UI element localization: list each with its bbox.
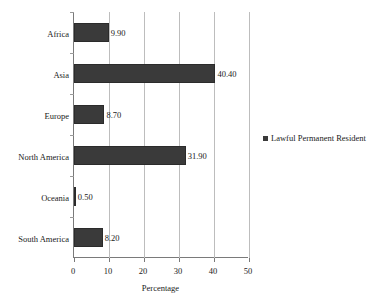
bar: [74, 228, 103, 247]
bar-value-label: 31.90: [188, 151, 207, 161]
bar-chart: Africa Asia Europe North America Oceania…: [0, 0, 391, 306]
x-tick-mark: [179, 258, 180, 262]
x-tick-mark: [249, 258, 250, 262]
x-tick-mark: [74, 258, 75, 262]
gridline: [179, 12, 180, 258]
x-tick-mark: [214, 258, 215, 262]
gridline: [144, 12, 145, 258]
plot-area: [73, 12, 248, 258]
gridline: [249, 12, 250, 258]
x-tick-label: 30: [166, 266, 190, 276]
category-label-0: Africa: [0, 29, 69, 39]
bar: [74, 146, 186, 165]
bar-value-label: 8.70: [106, 110, 121, 120]
x-tick-mark: [144, 258, 145, 262]
bar: [74, 64, 215, 83]
x-axis-title: Percentage: [73, 283, 248, 294]
bar-value-label: 0.50: [78, 192, 93, 202]
category-label-4: Oceania: [0, 193, 69, 203]
x-tick-label: 10: [96, 266, 120, 276]
legend-label: Lawful Permanent Resident: [271, 133, 366, 143]
x-tick-label: 40: [201, 266, 225, 276]
gridline: [109, 12, 110, 258]
bar-value-label: 8.20: [105, 233, 120, 243]
legend-swatch-icon: [263, 136, 268, 141]
gridline: [214, 12, 215, 258]
legend: Lawful Permanent Resident: [263, 133, 366, 143]
bar: [74, 187, 76, 206]
y-tick-mark: [70, 217, 74, 218]
y-tick-mark: [70, 176, 74, 177]
x-tick-label: 0: [61, 266, 85, 276]
category-label-5: South America: [0, 234, 69, 244]
category-label-1: Asia: [0, 70, 69, 80]
bar: [74, 105, 104, 124]
bar-value-label: 9.90: [111, 28, 126, 38]
bar-value-label: 40.40: [217, 69, 236, 79]
y-tick-mark: [70, 135, 74, 136]
bar: [74, 23, 109, 42]
x-tick-label: 20: [131, 266, 155, 276]
y-tick-mark: [70, 94, 74, 95]
category-label-2: Europe: [0, 111, 69, 121]
x-tick-mark: [109, 258, 110, 262]
x-tick-label: 50: [236, 266, 260, 276]
y-tick-mark: [70, 12, 74, 13]
category-label-3: North America: [0, 152, 69, 162]
y-tick-mark: [70, 53, 74, 54]
